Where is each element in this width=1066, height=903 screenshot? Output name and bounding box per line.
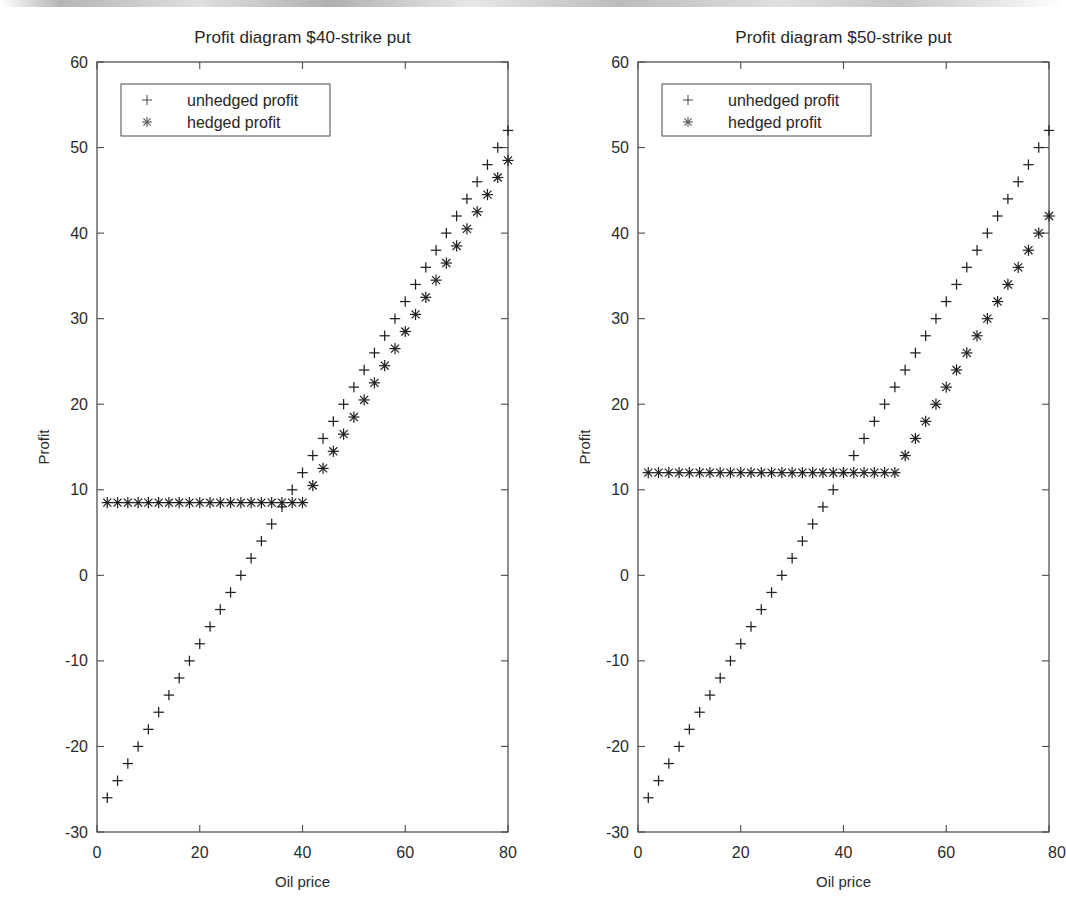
x-tick-label: 40: [835, 844, 853, 861]
y-tick-label: 0: [79, 567, 88, 584]
x-tick-label: 0: [93, 844, 102, 861]
y-tick-label: -10: [606, 652, 629, 669]
x-tick-label: 40: [294, 844, 312, 861]
x-tick-label: 20: [732, 844, 750, 861]
x-tick-label: 60: [937, 844, 955, 861]
y-tick-label: 10: [611, 481, 629, 498]
y-tick-label: -20: [606, 738, 629, 755]
y-tick-label: -30: [65, 824, 88, 841]
series-unhedged: [102, 125, 513, 803]
legend-entry-label: hedged profit: [728, 114, 822, 131]
plot-area-left: -30-20-100102030405060020406080Oil price…: [0, 0, 540, 903]
y-tick-label: 30: [611, 310, 629, 327]
legend-entry-label: hedged profit: [187, 114, 281, 131]
y-tick-label: 50: [70, 139, 88, 156]
chart-panel-right: Profit diagram $50-strike put -30-20-100…: [541, 0, 1066, 903]
legend-entry-label: unhedged profit: [728, 92, 840, 109]
y-tick-label: 20: [611, 396, 629, 413]
y-tick-label: 50: [611, 139, 629, 156]
y-tick-label: 30: [70, 310, 88, 327]
x-axis-label: Oil price: [816, 873, 871, 890]
legend: unhedged profithedged profit: [662, 84, 871, 136]
y-tick-label: 60: [611, 54, 629, 71]
y-tick-label: 20: [70, 396, 88, 413]
legend: unhedged profithedged profit: [121, 84, 330, 136]
x-tick-label: 0: [634, 844, 643, 861]
y-tick-label: 0: [620, 567, 629, 584]
x-tick-label: 60: [396, 844, 414, 861]
x-tick-label: 20: [191, 844, 209, 861]
series-hedged: [643, 210, 1055, 478]
y-axis-label: Profit: [35, 429, 52, 465]
profit-diagram-figure: Profit diagram $40-strike put -30-20-100…: [0, 0, 1066, 903]
x-tick-label: 80: [499, 844, 517, 861]
y-tick-label: 40: [611, 225, 629, 242]
y-tick-label: -10: [65, 652, 88, 669]
x-axis-label: Oil price: [275, 873, 330, 890]
plot-area-right: -30-20-100102030405060020406080Oil price…: [541, 0, 1066, 903]
x-tick-label: 80: [1048, 844, 1066, 861]
chart-panel-left: Profit diagram $40-strike put -30-20-100…: [0, 0, 540, 903]
y-tick-label: 10: [70, 481, 88, 498]
y-axis-label: Profit: [576, 429, 593, 465]
series-unhedged: [643, 125, 1054, 803]
y-tick-label: -30: [606, 824, 629, 841]
y-tick-label: 60: [70, 54, 88, 71]
y-tick-label: 40: [70, 225, 88, 242]
legend-entry-label: unhedged profit: [187, 92, 299, 109]
y-tick-label: -20: [65, 738, 88, 755]
